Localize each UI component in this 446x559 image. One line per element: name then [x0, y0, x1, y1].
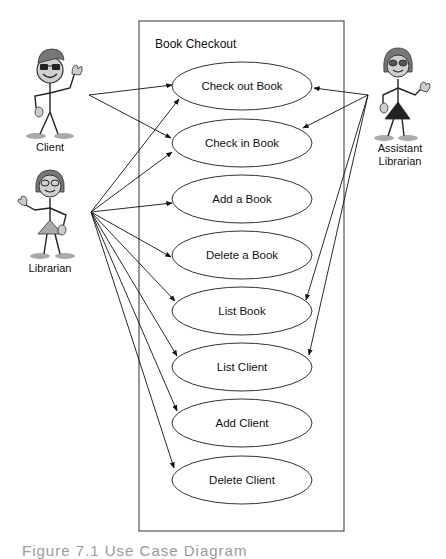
client-actor-label: Client	[20, 141, 80, 153]
use-case-label: Delete a Book	[172, 248, 312, 262]
assistant-librarian-actor-figure[interactable]	[374, 48, 430, 141]
use-case-label: Check out Book	[172, 79, 312, 93]
librarian-associations	[91, 99, 179, 468]
client-associations	[89, 85, 172, 138]
use-case-label: Add Client	[172, 416, 312, 430]
librarian-actor-label: Librarian	[20, 262, 80, 274]
use-case-label: List Client	[172, 360, 312, 374]
figure-caption: Figure 7.1 Use Case Diagram	[22, 542, 247, 559]
use-case-label: Check in Book	[172, 136, 312, 150]
use-case-label: Add a Book	[172, 192, 312, 206]
assistant-librarian-label-line2: Librarian	[370, 155, 430, 167]
assistant-librarian-associations	[303, 88, 368, 355]
assistant-librarian-label-line1: Assistant	[370, 142, 430, 154]
client-actor-figure[interactable]	[26, 49, 82, 139]
use-case-ellipses	[172, 62, 312, 504]
use-case-label: List Book	[172, 304, 312, 318]
use-case-label: Delete Client	[172, 473, 312, 487]
librarian-actor-figure[interactable]	[18, 170, 75, 259]
system-title: Book Checkout	[155, 37, 236, 51]
